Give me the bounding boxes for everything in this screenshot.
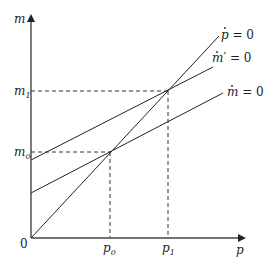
origin-label: 0 xyxy=(20,237,28,251)
time-derivative-dot-icon xyxy=(216,51,218,53)
m-dot-zero-label: m = 0 xyxy=(227,85,264,99)
svg-text:p = 0: p = 0 xyxy=(221,28,254,42)
m-dot-prime-zero-label: m′ = 0 xyxy=(212,51,251,65)
y-tick-m0: m0 xyxy=(14,145,30,161)
svg-text:m = 0: m = 0 xyxy=(227,85,264,99)
time-derivative-dot-icon xyxy=(224,27,226,29)
phase-diagram: m p 0 m0 m1 p0 p1 p = 0 m′ = 0 m = 0 xyxy=(0,0,265,267)
m-dot-zero-line xyxy=(31,93,223,193)
x-tick-p1: p1 xyxy=(162,241,175,257)
svg-text:m′ = 0: m′ = 0 xyxy=(212,51,251,65)
y-axis-label: m xyxy=(14,12,25,26)
time-derivative-dot-icon xyxy=(231,85,233,87)
x-tick-p0: p0 xyxy=(103,241,116,257)
p-dot-zero-line xyxy=(31,36,219,238)
p-dot-zero-label: p = 0 xyxy=(221,27,254,42)
y-tick-m1: m1 xyxy=(14,84,30,100)
x-axis-label: p xyxy=(236,243,244,257)
